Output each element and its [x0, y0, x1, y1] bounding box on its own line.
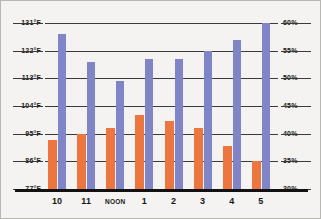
- right-axis-tick-rule: [281, 134, 311, 135]
- temperature-bar: [77, 134, 86, 189]
- left-axis-tick-rule: [13, 134, 43, 135]
- left-axis-tick-rule: [13, 78, 43, 79]
- x-tick-label: 1: [142, 197, 147, 206]
- x-tick-label: 10: [52, 197, 62, 206]
- x-tick-label: 2: [171, 197, 176, 206]
- humidity-bar: [262, 23, 270, 189]
- chart-container: 77°F30%86°F35%95°F40%104°F45%113°F50%122…: [0, 0, 321, 219]
- x-tick-label: NOON: [105, 199, 126, 206]
- humidity-bar: [145, 59, 153, 189]
- x-axis-baseline: [15, 189, 308, 192]
- x-axis-tick-labels: 1011NOON12345: [45, 197, 278, 215]
- right-axis-tick-rule: [281, 161, 311, 162]
- x-tick-label: 3: [200, 197, 205, 206]
- left-axis-tick-rule: [13, 51, 43, 52]
- temperature-bar: [223, 146, 232, 189]
- humidity-bar: [204, 51, 212, 189]
- humidity-bar: [175, 59, 183, 189]
- humidity-bar: [87, 62, 95, 189]
- left-axis-tick-rule: [13, 23, 43, 24]
- x-tick-label: 11: [81, 197, 91, 206]
- humidity-bar: [233, 40, 241, 189]
- temperature-bar: [135, 115, 144, 189]
- x-tick-label: 4: [229, 197, 234, 206]
- temperature-bar: [48, 140, 57, 189]
- right-axis-tick-rule: [281, 78, 311, 79]
- gridline: [45, 23, 278, 24]
- gridline: [45, 51, 278, 52]
- temperature-bar: [252, 161, 261, 189]
- humidity-bar: [116, 81, 124, 189]
- right-axis-tick-rule: [281, 106, 311, 107]
- temperature-bar: [194, 128, 203, 189]
- x-tick-label: 5: [258, 197, 263, 206]
- left-axis-tick-rule: [13, 161, 43, 162]
- plot-area: 77°F30%86°F35%95°F40%104°F45%113°F50%122…: [45, 23, 278, 189]
- right-axis-tick-rule: [281, 51, 311, 52]
- gridline: [45, 78, 278, 79]
- temperature-bar: [106, 128, 115, 189]
- temperature-bar: [165, 121, 174, 189]
- gridline: [45, 106, 278, 107]
- humidity-bar: [58, 34, 66, 189]
- left-axis-tick-rule: [13, 106, 43, 107]
- right-axis-tick-rule: [281, 23, 311, 24]
